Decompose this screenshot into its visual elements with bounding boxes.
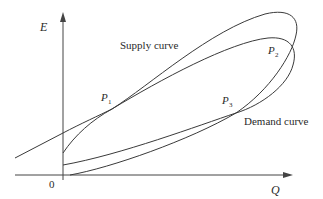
svg-text:P: P [267, 44, 275, 56]
y-axis-label: E [39, 20, 48, 34]
supply-curve-label: Supply curve [120, 39, 178, 51]
axes [15, 12, 293, 180]
svg-text:P: P [221, 94, 229, 106]
svg-text:3: 3 [229, 101, 233, 109]
origin-label: 0 [49, 178, 55, 190]
svg-text:2: 2 [275, 51, 279, 59]
point-p3-label: P 3 [221, 94, 233, 109]
svg-text:1: 1 [108, 98, 112, 106]
point-p2-label: P 2 [267, 44, 279, 59]
outer-loop-curve [15, 12, 297, 175]
svg-text:P: P [100, 91, 108, 103]
x-axis-arrow-icon [283, 172, 293, 178]
inner-loop-curve [63, 38, 294, 165]
y-axis-arrow-icon [60, 12, 66, 22]
x-axis-label: Q [271, 183, 280, 197]
supply-demand-diagram: E Q 0 Supply curve Demand curve P 1 P 2 … [0, 0, 323, 199]
point-p1-label: P 1 [100, 91, 112, 106]
demand-curve-label: Demand curve [244, 115, 309, 127]
